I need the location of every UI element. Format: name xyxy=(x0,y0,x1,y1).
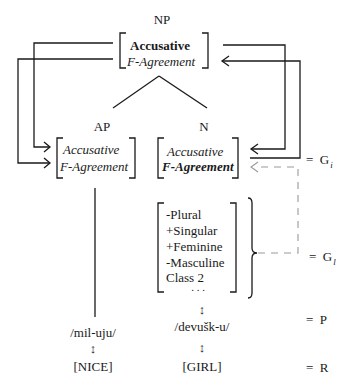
ap-bracket-right xyxy=(129,138,135,178)
n-phonology: /devušk-u/ xyxy=(175,320,230,334)
equals-sign: = xyxy=(309,249,316,264)
level-subscript: l xyxy=(333,257,336,267)
level-symbol: G xyxy=(323,249,332,264)
n-agreement-feature: F-Agreement xyxy=(162,160,234,174)
level-label-gi: = Gi xyxy=(306,153,333,168)
ap-case-feature: Accusative xyxy=(63,143,119,157)
level-subscript: i xyxy=(330,160,333,170)
branch-to-n xyxy=(159,76,207,108)
feature-masculine: -Masculine xyxy=(166,255,224,271)
np-label: NP xyxy=(154,13,171,27)
feature-singular: +Singular xyxy=(166,223,217,239)
equals-sign: = xyxy=(306,360,313,375)
equals-sign: = xyxy=(306,152,313,167)
n-case-feature: Accusative xyxy=(167,145,223,159)
feature-feminine: +Feminine xyxy=(166,239,222,255)
np-bracket-left xyxy=(120,33,126,68)
level-symbol: P xyxy=(320,312,327,327)
branch-to-ap xyxy=(113,76,159,108)
level-label-r: = R xyxy=(306,361,329,375)
level-label-p: = P xyxy=(306,313,327,327)
arrow-n-agr-to-np xyxy=(222,61,300,158)
np-agreement-feature: F-Agreement xyxy=(127,55,195,69)
dashed-arrow-features-to-n xyxy=(256,167,298,253)
ap-phonology: /mil-uju/ xyxy=(70,326,116,340)
n-features-link-arrow-icon: ↕ xyxy=(199,303,206,317)
ap-agreement-feature: F-Agreement xyxy=(60,160,128,174)
level-symbol: G xyxy=(320,152,329,167)
n-meaning: [GIRL] xyxy=(183,360,222,374)
ap-meaning: [NICE] xyxy=(74,360,113,374)
np-case-feature: Accusative xyxy=(130,39,190,53)
features-brace xyxy=(248,198,257,298)
features-bracket-right xyxy=(230,203,236,292)
ap-label: AP xyxy=(94,120,111,134)
n-label: N xyxy=(199,120,208,134)
level-symbol: R xyxy=(320,360,329,375)
agreement-diagram: NP Accusative F-Agreement AP Accusative … xyxy=(0,0,350,392)
level-label-gl: = Gl xyxy=(309,250,336,265)
features-bracket-left xyxy=(158,203,164,292)
feature-ellipsis: . . . xyxy=(191,280,205,294)
ap-link-arrow-icon: ↕ xyxy=(90,342,97,356)
n-link-arrow-icon: ↕ xyxy=(199,341,206,355)
feature-plural: -Plural xyxy=(166,207,201,223)
np-bracket-right xyxy=(202,33,208,68)
equals-sign: = xyxy=(306,312,313,327)
